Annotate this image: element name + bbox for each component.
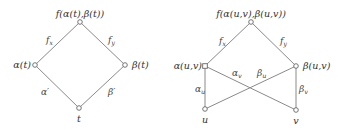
diagram-single-variable: f(α(t),β(t)) α(t) β(t) t fx fy α′ β′ — [13, 8, 149, 124]
edge-fy — [80, 22, 125, 65]
edge-fy — [251, 22, 296, 66]
node-top — [78, 20, 83, 25]
node-label-alpha: α(u,v) — [174, 60, 203, 71]
node-label-alpha: α(t) — [13, 59, 31, 70]
node-alpha — [203, 64, 208, 69]
edge-label-alpha-v: αv — [232, 68, 242, 80]
edge-fx — [205, 22, 251, 66]
edge-label-fy: fy — [279, 36, 287, 48]
chain-rule-diagrams: f(α(t),β(t)) α(t) β(t) t fx fy α′ β′ f(α… — [0, 0, 342, 134]
edge-label-fy: fy — [107, 35, 115, 47]
node-label-top: f(α(t),β(t)) — [55, 8, 105, 19]
node-label-u: u — [202, 114, 208, 125]
edge-label-fx: fx — [218, 36, 226, 48]
edge-beta-prime — [79, 65, 125, 108]
node-v — [294, 108, 299, 113]
node-label-beta: β(u,v) — [302, 60, 331, 71]
edge-label-beta-v: βv — [298, 84, 308, 96]
node-label-v: v — [293, 115, 299, 126]
node-label-t: t — [77, 113, 81, 124]
node-t — [77, 106, 82, 111]
node-beta — [123, 63, 128, 68]
edge-label-fx: fx — [45, 35, 53, 47]
edge-label-alpha-prime: α′ — [41, 87, 49, 97]
edge-label-beta-u: βu — [256, 68, 266, 80]
diagram-two-variable: f(α(u,v),β(u,v)) α(u,v) β(u,v) u v fx fy… — [174, 8, 331, 126]
node-label-beta: β(t) — [131, 59, 149, 70]
node-alpha — [33, 63, 38, 68]
node-label-top: f(α(u,v),β(u,v)) — [215, 8, 286, 19]
edge-label-beta-prime: β′ — [107, 87, 115, 97]
node-beta — [294, 64, 299, 69]
node-u — [203, 107, 208, 112]
edge-fx — [35, 22, 80, 65]
edge-label-alpha-u: αu — [195, 84, 205, 96]
node-top — [249, 20, 254, 25]
